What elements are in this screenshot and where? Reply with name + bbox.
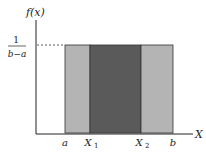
tick-x1-subscript: 1 [94, 142, 98, 150]
region-x2-to-b [141, 45, 173, 133]
region-a-to-x1 [65, 45, 90, 133]
tick-b: b [170, 137, 176, 148]
x-axis-label: X [194, 128, 204, 141]
density-denominator: b−a [8, 49, 27, 59]
tick-x2: X [134, 137, 143, 148]
uniform-pdf-diagram: f(x) 1 b−a a X 1 X 2 b X [0, 0, 206, 161]
tick-x2-subscript: 2 [145, 142, 149, 150]
tick-x1: X [83, 137, 92, 148]
density-numerator: 1 [13, 35, 19, 45]
tick-a: a [62, 137, 68, 148]
region-x1-to-x2 [90, 45, 141, 133]
y-axis-label: f(x) [25, 6, 45, 19]
